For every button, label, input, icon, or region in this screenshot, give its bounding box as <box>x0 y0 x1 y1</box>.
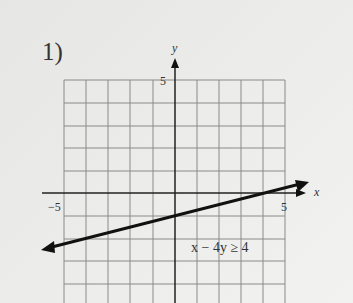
x-axis-label: x <box>314 185 319 200</box>
inequality-label: x − 4y ≥ 4 <box>191 240 249 256</box>
x-tick-5: 5 <box>281 200 287 215</box>
x-axis-arrow-icon <box>296 189 306 197</box>
y-axis-label: y <box>172 41 177 56</box>
y-tick-5: 5 <box>160 74 166 89</box>
axes <box>42 66 300 303</box>
y-axis-arrow-icon <box>171 58 179 68</box>
x-tick-neg5: −5 <box>48 200 61 215</box>
line-arrow-left-icon <box>41 241 55 253</box>
